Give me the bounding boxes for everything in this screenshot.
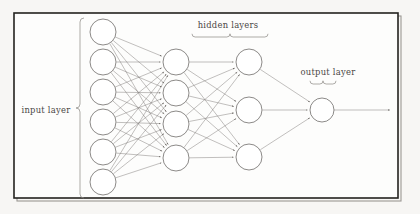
neuron-output-layer-1: [310, 98, 334, 122]
neuron-hidden-layer-2-1: [236, 49, 262, 75]
neuron-input-layer-4: [90, 109, 116, 135]
neuron-hidden-layer-1-1: [163, 49, 189, 75]
neuron-hidden-layer-1-3: [163, 111, 189, 137]
neuron-hidden-layer-2-2: [236, 97, 262, 123]
neuron-input-layer-6: [90, 169, 116, 195]
neuron-hidden-layer-2-3: [236, 144, 262, 170]
figure-frame: [14, 13, 401, 201]
neural-network-figure: input layer hidden layers output layer: [0, 0, 420, 214]
diagram-canvas: input layer hidden layers output layer: [0, 0, 420, 214]
neuron-input-layer-3: [90, 79, 116, 105]
neuron-input-layer-5: [90, 139, 116, 165]
input-layer-label: input layer: [22, 105, 71, 115]
neuron-input-layer-1: [90, 19, 116, 45]
hidden-layers-label: hidden layers: [198, 20, 259, 30]
neuron-hidden-layer-1-2: [163, 80, 189, 106]
output-layer-label: output layer: [301, 67, 356, 77]
neuron-hidden-layer-1-4: [163, 145, 189, 171]
neuron-input-layer-2: [90, 49, 116, 75]
